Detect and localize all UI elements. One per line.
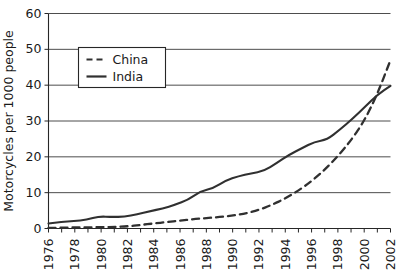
y-tick-label: 0 [34, 221, 42, 236]
x-tick-label: 1984 [146, 238, 161, 270]
y-tick-label: 20 [26, 149, 42, 164]
x-tick-label: 1982 [120, 239, 135, 271]
y-tick-label: 60 [26, 6, 42, 21]
x-tick-label: 1998 [330, 238, 345, 270]
x-tick-label: 2000 [357, 238, 372, 270]
x-tick-label: 1996 [304, 238, 319, 270]
x-tick-label: 1978 [67, 238, 82, 270]
y-axis-ticks [45, 14, 49, 229]
legend-label-china: China [113, 52, 149, 67]
x-tick-label: 1986 [173, 238, 188, 270]
x-axis-tick-labels: 1976197819801982198419861988199019921994… [41, 238, 398, 270]
x-tick-label: 1994 [278, 238, 293, 270]
y-axis-title: Motorcycles per 1000 people [1, 30, 16, 212]
x-axis-ticks [49, 229, 391, 233]
x-tick-label: 2002 [383, 239, 398, 271]
y-tick-label: 50 [26, 41, 42, 56]
y-axis-tick-labels: 0102030405060 [26, 6, 42, 236]
legend-label-india: India [113, 69, 144, 84]
series-line-india [49, 86, 391, 224]
y-tick-label: 10 [26, 185, 42, 200]
line-chart: 0102030405060 19761978198019821984198619… [0, 0, 401, 274]
chart-container: 0102030405060 19761978198019821984198619… [0, 0, 401, 274]
x-tick-label: 1990 [225, 238, 240, 270]
gridlines [49, 14, 391, 193]
x-tick-label: 1980 [94, 238, 109, 270]
y-tick-label: 40 [26, 77, 42, 92]
x-tick-label: 1976 [41, 238, 56, 270]
chart-legend: ChinaIndia [79, 48, 166, 88]
x-tick-label: 1988 [199, 238, 214, 270]
y-tick-label: 30 [26, 113, 42, 128]
x-tick-label: 1992 [251, 239, 266, 271]
